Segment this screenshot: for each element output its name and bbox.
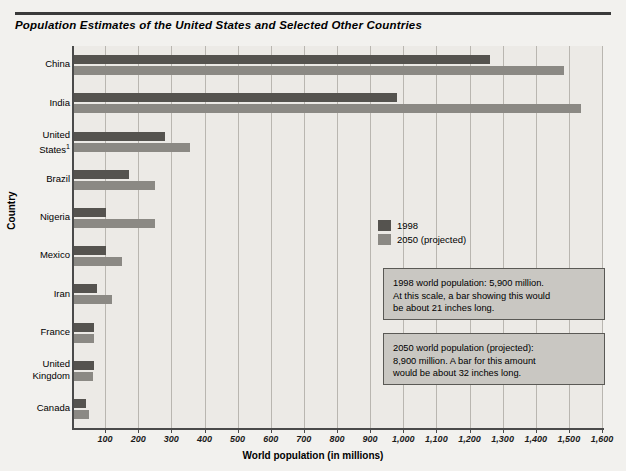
x-axis-tick <box>436 428 437 433</box>
gridline <box>271 46 272 428</box>
x-axis-tick <box>403 428 404 433</box>
gridline <box>138 46 139 428</box>
category-label-group: France <box>0 326 70 338</box>
x-axis-tick-label: 400 <box>197 434 212 444</box>
bar-india-1998 <box>74 93 397 102</box>
legend-swatch-1998 <box>378 220 391 231</box>
bar-canada-2050 <box>74 410 89 419</box>
category-label-group: Brazil <box>0 173 70 185</box>
x-axis-tick <box>503 428 504 433</box>
x-axis-tick-label: 100 <box>98 434 113 444</box>
x-axis-tick-label: 1,500 <box>558 434 581 444</box>
bar-iran-2050 <box>74 295 112 304</box>
bar-united-kingdom-2050 <box>74 372 93 381</box>
bar-brazil-1998 <box>74 170 129 179</box>
bar-united-kingdom-1998 <box>74 361 94 370</box>
bar-india-2050 <box>74 104 581 113</box>
bar-united-states-1998 <box>74 132 165 141</box>
legend-swatch-2050 <box>378 234 391 245</box>
category-label: States1 <box>0 141 70 156</box>
x-axis-tick-label: 1,000 <box>392 434 415 444</box>
x-axis-tick <box>304 428 305 433</box>
y-axis-title: Country <box>6 191 17 229</box>
bar-canada-1998 <box>74 399 86 408</box>
x-axis-tick-label: 500 <box>230 434 245 444</box>
x-axis-title: World population (in millions) <box>0 450 626 461</box>
x-axis-tick-label: 1,100 <box>425 434 448 444</box>
x-axis-tick-label: 900 <box>363 434 378 444</box>
category-label: Canada <box>0 402 70 414</box>
legend-item: 1998 <box>378 220 466 231</box>
bar-united-states-2050 <box>74 143 190 152</box>
footnote-marker: 1 <box>66 143 70 150</box>
category-label: India <box>0 97 70 109</box>
bar-iran-1998 <box>74 284 97 293</box>
category-label-group: Mexico <box>0 249 70 261</box>
x-axis-tick-label: 300 <box>164 434 179 444</box>
category-label: United <box>0 358 70 370</box>
bar-brazil-2050 <box>74 181 155 190</box>
x-axis-tick-label: 600 <box>263 434 278 444</box>
gridline <box>171 46 172 428</box>
bar-mexico-1998 <box>74 246 106 255</box>
bar-nigeria-1998 <box>74 208 106 217</box>
x-axis-tick-label: 200 <box>131 434 146 444</box>
x-axis-tick <box>271 428 272 433</box>
x-axis-tick <box>238 428 239 433</box>
x-axis-tick <box>205 428 206 433</box>
x-axis-tick-label: 1,400 <box>524 434 547 444</box>
category-label: China <box>0 58 70 70</box>
x-axis-tick <box>105 428 106 433</box>
x-axis-tick <box>536 428 537 433</box>
legend: 1998 2050 (projected) <box>378 220 466 248</box>
category-label: United <box>0 129 70 141</box>
x-axis-tick <box>569 428 570 433</box>
bar-nigeria-2050 <box>74 219 155 228</box>
gridline <box>304 46 305 428</box>
legend-label-1998: 1998 <box>397 220 418 231</box>
x-axis-tick <box>602 428 603 433</box>
gridline <box>337 46 338 428</box>
category-label-group: UnitedStates1 <box>0 129 70 155</box>
x-axis-tick <box>370 428 371 433</box>
bar-china-1998 <box>74 55 490 64</box>
gridline <box>238 46 239 428</box>
legend-item: 2050 (projected) <box>378 234 466 245</box>
category-label: Mexico <box>0 249 70 261</box>
x-axis-tick-label: 1,200 <box>458 434 481 444</box>
callout-1998-world-population: 1998 world population: 5,900 million. At… <box>383 268 605 320</box>
bar-france-1998 <box>74 323 94 332</box>
callout-2050-world-population: 2050 world population (projected): 8,900… <box>383 333 605 385</box>
category-label-group: Canada <box>0 402 70 414</box>
x-axis-tick-label: 800 <box>329 434 344 444</box>
x-axis-tick <box>337 428 338 433</box>
chart-page: Population Estimates of the United State… <box>0 0 626 471</box>
gridline <box>205 46 206 428</box>
category-label-group: China <box>0 58 70 70</box>
x-axis-tick-label: 700 <box>296 434 311 444</box>
title-rule <box>15 12 611 15</box>
x-axis-tick-label: 1,300 <box>491 434 514 444</box>
category-label: Brazil <box>0 173 70 185</box>
category-label: France <box>0 326 70 338</box>
gridline <box>105 46 106 428</box>
category-label-group: UnitedKingdom <box>0 358 70 381</box>
x-axis-tick <box>470 428 471 433</box>
x-axis-tick-label: 1,600 <box>591 434 614 444</box>
bar-france-2050 <box>74 334 94 343</box>
legend-label-2050: 2050 (projected) <box>397 234 466 245</box>
page-title: Population Estimates of the United State… <box>15 19 615 31</box>
x-axis-tick <box>138 428 139 433</box>
x-axis-line <box>72 428 604 430</box>
category-label-group: Iran <box>0 288 70 300</box>
bar-china-2050 <box>74 66 564 75</box>
category-label-group: India <box>0 97 70 109</box>
category-label: Iran <box>0 288 70 300</box>
x-axis-tick <box>171 428 172 433</box>
gridline <box>370 46 371 428</box>
category-label: Kingdom <box>0 370 70 382</box>
bar-mexico-2050 <box>74 257 122 266</box>
